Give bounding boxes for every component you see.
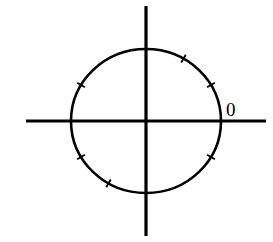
zero-angle-label: 0 <box>226 99 236 120</box>
unit-circle-diagram: 0 <box>0 0 273 242</box>
